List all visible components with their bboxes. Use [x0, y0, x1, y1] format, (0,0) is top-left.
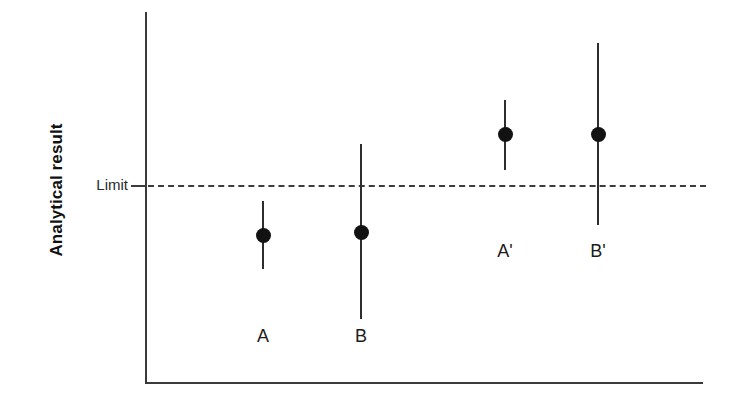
data-point-label: A	[257, 326, 269, 347]
data-point-marker	[256, 228, 271, 243]
data-point-marker	[498, 127, 513, 142]
analytical-result-chart: Analytical result Limit ABA'B'	[0, 0, 729, 403]
data-point-label: A'	[497, 241, 512, 262]
data-point-marker	[354, 225, 369, 240]
data-point-marker	[591, 127, 606, 142]
data-point-label: B'	[590, 241, 605, 262]
data-series-layer: ABA'B'	[0, 0, 729, 403]
data-point-label: B	[355, 326, 367, 347]
